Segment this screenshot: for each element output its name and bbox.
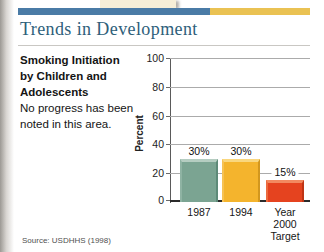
- x-tick-line: Year: [270, 206, 299, 218]
- plot-area: 02040608010030%198730%199415%Year2000Tar…: [170, 58, 310, 202]
- x-tick-line: Target: [270, 230, 299, 242]
- y-axis-line: [170, 58, 171, 203]
- x-tick-label-1987: 1987: [187, 206, 210, 218]
- accent-bar-blue: [18, 8, 210, 15]
- y-tick-label-40: 40: [137, 138, 164, 150]
- chart-caption-block: Smoking Initiation by Children and Adole…: [20, 52, 142, 132]
- gridline-100: [170, 58, 310, 59]
- x-tick-line: 2000: [270, 218, 299, 230]
- x-tick-label-1994: 1994: [229, 206, 252, 218]
- y-tick-label-20: 20: [137, 167, 164, 179]
- bar-1994: [222, 159, 260, 202]
- accent-bar-gold: [210, 8, 310, 15]
- caption-heading-line: Adolescents: [20, 84, 142, 100]
- caption-body-line: noted in this area.: [20, 116, 142, 132]
- x-tick-line: 1994: [229, 206, 252, 218]
- title-divider-rule: [18, 45, 310, 46]
- y-tickmark-60: [166, 116, 170, 117]
- y-tickmark-100: [166, 58, 170, 59]
- bar-value-label-1987: 30%: [185, 145, 212, 157]
- bar-1987: [180, 159, 218, 202]
- y-tickmark-0: [166, 200, 170, 201]
- y-tick-label-100: 100: [137, 52, 164, 64]
- caption-body-line: No progress has been: [20, 100, 142, 116]
- x-tick-label-year-2000-target: Year2000Target: [270, 206, 299, 242]
- y-tick-label-80: 80: [137, 81, 164, 93]
- y-tick-label-0: 0: [137, 194, 164, 206]
- header-accent-bar: [18, 8, 310, 15]
- gridline-80: [170, 87, 310, 88]
- page-title: Trends in Development: [20, 19, 198, 40]
- source-citation: Source: USDHHS (1998): [22, 236, 111, 245]
- y-tickmark-80: [166, 87, 170, 88]
- page-curl-shadow: [0, 0, 14, 252]
- gridline-60: [170, 116, 310, 117]
- x-tick-line: 1987: [187, 206, 210, 218]
- bar-year-2000-target: [266, 180, 304, 202]
- bar-value-label-1994: 30%: [227, 145, 254, 157]
- page-behind-tab: [100, 0, 176, 8]
- bar-value-label-year-2000-target: 15%: [271, 166, 298, 178]
- y-tick-label-60: 60: [137, 110, 164, 122]
- y-tickmark-20: [166, 173, 170, 174]
- y-tickmark-40: [166, 144, 170, 145]
- report-page: Trends in Development Smoking Initiation…: [0, 0, 324, 252]
- caption-heading-line: by Children and: [20, 68, 142, 84]
- caption-heading-line: Smoking Initiation: [20, 52, 142, 68]
